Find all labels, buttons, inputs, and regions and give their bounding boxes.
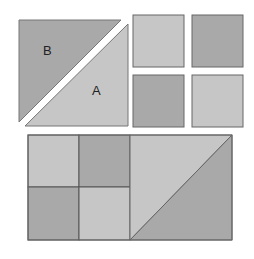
small-squares-grid: [133, 15, 243, 127]
split-square-ab: B A: [19, 20, 128, 126]
cell-top-right: [79, 135, 130, 187]
cell-top-left: [28, 135, 79, 187]
cell-bottom-right: [79, 187, 130, 240]
small-square-bottom-left: [133, 75, 184, 127]
small-square-bottom-right: [192, 75, 243, 127]
label-a: A: [92, 83, 101, 98]
bottom-checker-cells: [28, 135, 130, 240]
shape-diagram: B A: [0, 0, 254, 259]
small-square-top-right: [192, 15, 243, 67]
cell-bottom-left: [28, 187, 79, 240]
bottom-rectangle: [28, 135, 232, 240]
label-b: B: [43, 43, 52, 58]
small-square-top-left: [133, 15, 184, 67]
